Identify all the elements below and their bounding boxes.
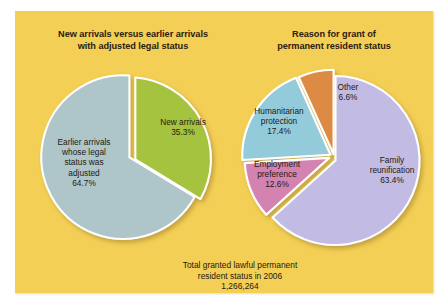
- figure-panel: New arrivals versus earlier arrivals wit…: [15, 11, 433, 293]
- figure-footnote: Total granted lawful permanent resident …: [125, 260, 355, 292]
- footnote-line2: resident status in 2006: [125, 271, 355, 282]
- left-pie-chart: [39, 65, 225, 251]
- figure-root: New arrivals versus earlier arrivals wit…: [0, 0, 448, 308]
- footnote-line1: Total granted lawful permanent: [125, 260, 355, 271]
- footnote-total-value: 1,266,264: [125, 281, 355, 292]
- left-chart-title-line2: with adjusted legal status: [78, 41, 189, 51]
- right-chart-title: Reason for grant of permanent resident s…: [239, 29, 429, 52]
- right-chart-title-line2: permanent resident status: [277, 41, 391, 51]
- left-chart-title: New arrivals versus earlier arrivals wit…: [29, 29, 237, 52]
- right-chart-title-line1: Reason for grant of: [292, 29, 376, 39]
- right-pie-chart: [237, 63, 429, 255]
- left-chart-title-line1: New arrivals versus earlier arrivals: [58, 29, 208, 39]
